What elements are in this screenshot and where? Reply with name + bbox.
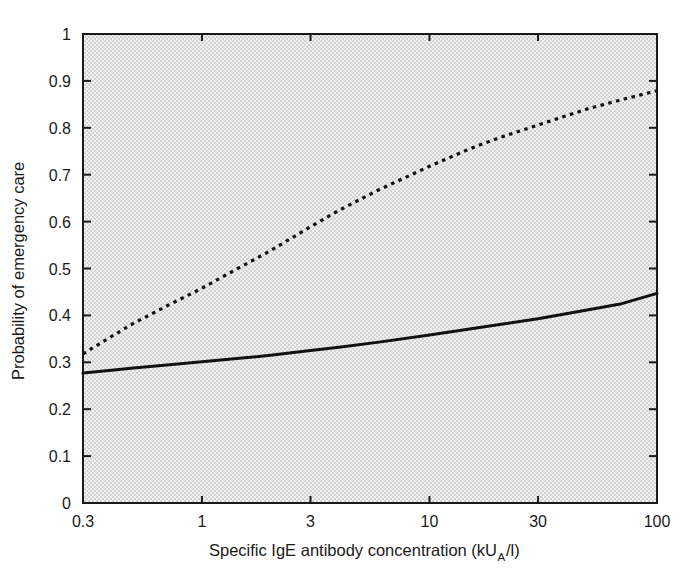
y-axis-tick-labels: 00.10.20.30.40.50.60.70.80.91 (49, 26, 71, 512)
x-tick-label-10: 10 (421, 513, 439, 530)
x-tick-label-30: 30 (529, 513, 547, 530)
x-tick-label-1: 1 (198, 513, 207, 530)
y-tick-label-0.5: 0.5 (49, 261, 71, 278)
y-tick-label-0: 0 (62, 495, 71, 512)
y-tick-label-0.3: 0.3 (49, 354, 71, 371)
x-tick-label-0.3: 0.3 (72, 513, 94, 530)
svg-text:A: A (498, 551, 506, 563)
svg-text:/l): /l) (506, 541, 520, 559)
svg-text:Specific IgE antibody concentr: Specific IgE antibody concentration (kU (209, 541, 497, 559)
probability-of-emergency-care-chart: 0.3131030100 00.10.20.30.40.50.60.70.80.… (0, 0, 692, 583)
y-tick-label-0.8: 0.8 (49, 120, 71, 137)
y-tick-label-0.4: 0.4 (49, 307, 71, 324)
y-tick-label-0.1: 0.1 (49, 448, 71, 465)
plot-background (83, 34, 657, 503)
figure-container: 0.3131030100 00.10.20.30.40.50.60.70.80.… (0, 0, 692, 583)
y-tick-label-0.6: 0.6 (49, 214, 71, 231)
x-tick-label-100: 100 (644, 513, 671, 530)
y-axis-title: Probability of emergency care (9, 162, 27, 380)
y-tick-label-1: 1 (62, 26, 71, 43)
y-tick-label-0.9: 0.9 (49, 73, 71, 90)
x-axis-title: Specific IgE antibody concentration (kU … (209, 541, 520, 563)
x-tick-label-3: 3 (306, 513, 315, 530)
x-axis-tick-labels: 0.3131030100 (72, 513, 671, 530)
y-tick-label-0.2: 0.2 (49, 401, 71, 418)
y-tick-label-0.7: 0.7 (49, 167, 71, 184)
